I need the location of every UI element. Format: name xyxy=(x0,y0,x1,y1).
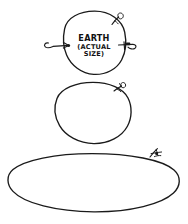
earth-caption-line-3: SIZE) xyxy=(84,50,105,58)
bottom-ellipse-outline xyxy=(8,154,179,212)
left-arrow-icon xyxy=(44,43,70,49)
comic-drawing: EARTH (ACTUAL SIZE) xyxy=(0,0,188,224)
right-arrow-icon xyxy=(119,42,136,50)
middle-circle-outline xyxy=(55,82,131,143)
bottom-ellipse-group xyxy=(8,149,179,212)
earth-circle-group: EARTH (ACTUAL SIZE) xyxy=(44,11,135,74)
bird-squiggle-icon xyxy=(150,149,162,157)
comic-canvas: EARTH (ACTUAL SIZE) xyxy=(0,0,188,224)
earth-caption-line-1: EARTH xyxy=(78,33,109,43)
curl-squiggle-icon xyxy=(112,13,123,24)
middle-circle-group xyxy=(55,82,131,143)
